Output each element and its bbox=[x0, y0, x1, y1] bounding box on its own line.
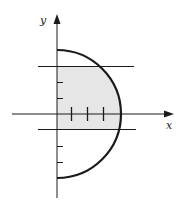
shaded-region bbox=[57, 66, 121, 130]
x-axis-arrow-icon bbox=[164, 111, 174, 118]
diagram: x y bbox=[0, 0, 181, 202]
x-axis-label: x bbox=[166, 119, 173, 132]
y-axis-label: y bbox=[39, 14, 47, 27]
y-axis-arrow-icon bbox=[54, 14, 61, 24]
